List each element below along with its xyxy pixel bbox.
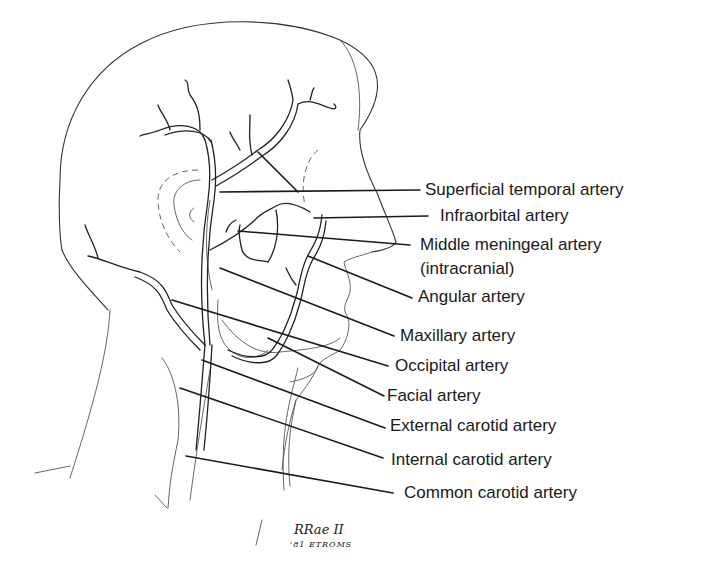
label-middle-meningeal-artery: Middle meningeal artery [420, 235, 601, 255]
arteries [85, 80, 336, 450]
ear [158, 170, 200, 252]
artist-signature: RRae II [294, 522, 344, 537]
label-superficial-temporal-artery: Superficial temporal artery [425, 180, 623, 200]
label-occipital-artery: Occipital artery [395, 356, 508, 376]
label-maxillary-artery: Maxillary artery [400, 326, 515, 346]
label-angular-artery: Angular artery [418, 287, 525, 307]
label-facial-artery: Facial artery [387, 386, 481, 406]
head-neck-arteries-illustration [0, 0, 711, 586]
neck-outline [35, 310, 298, 545]
label-common-carotid-artery: Common carotid artery [404, 483, 577, 503]
label-external-carotid-artery: External carotid artery [390, 416, 556, 436]
label-infraorbital-artery: Infraorbital artery [440, 206, 569, 226]
leader-lines [172, 152, 428, 493]
mandible [206, 200, 340, 357]
label-internal-carotid-artery: Internal carotid artery [391, 450, 552, 470]
artist-signature-date: '81 ETROMS [290, 540, 352, 549]
label-middle-meningeal-note: (intracranial) [420, 259, 514, 279]
